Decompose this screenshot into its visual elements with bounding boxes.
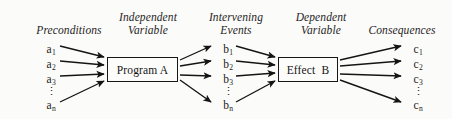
process-box-effect-b-label: Effect B: [287, 64, 330, 76]
arrow-program-to-b2: [180, 61, 211, 66]
intervening-sub-b2: 2: [229, 63, 233, 72]
arrow-an-to-program: [60, 81, 104, 102]
consequence-sub-cn: n: [419, 104, 423, 113]
arrow-group-intervening-to-effect: [236, 46, 275, 102]
intervening-item-b1: b1: [215, 44, 241, 56]
precondition-item-a2: a2: [38, 59, 64, 71]
intervening-sub-bn: n: [229, 104, 233, 113]
precondition-sub-a2: 2: [52, 63, 56, 72]
intervening-item-b3: b3: [215, 74, 241, 86]
precondition-sub-an: n: [52, 104, 56, 113]
arrow-effect-to-c3: [340, 74, 401, 76]
arrow-b3-to-effect: [236, 73, 275, 76]
precondition-item-a3: a3: [38, 74, 64, 86]
consequences-vertical-ellipsis: ⋮: [405, 87, 431, 96]
intervening-item-bn: bn: [215, 100, 241, 112]
column-header-consequences: Consequences: [352, 24, 452, 37]
consequence-sub-c2: 2: [419, 63, 423, 72]
consequence-item-cn: cn: [405, 100, 431, 112]
process-box-program-a[interactable]: Program A: [107, 57, 178, 82]
causal-model-diagram: Preconditions Independent Variable Inter…: [0, 0, 452, 119]
arrow-effect-to-cn: [340, 80, 401, 102]
arrow-effect-to-c1: [340, 46, 401, 60]
intervening-sub-b1: 1: [229, 48, 233, 57]
arrow-b2-to-effect: [236, 61, 275, 65]
arrow-bn-to-effect: [236, 81, 275, 102]
arrow-b1-to-effect: [236, 46, 275, 57]
process-box-program-a-label: Program A: [117, 64, 169, 76]
consequence-item-c2: c2: [405, 59, 431, 71]
arrow-effect-to-c2: [340, 61, 401, 66]
arrow-program-to-bn: [180, 80, 211, 102]
arrow-group-program-to-intervening: [180, 46, 211, 102]
precondition-item-a1: a1: [38, 44, 64, 56]
process-box-effect-b[interactable]: Effect B: [278, 57, 338, 82]
column-header-intervening-events: Intervening Events: [190, 11, 282, 36]
arrow-a3-to-program: [60, 74, 104, 76]
column-header-independent-variable: Independent Variable: [98, 11, 198, 36]
precondition-item-an: an: [38, 100, 64, 112]
arrow-program-to-b1: [180, 46, 211, 60]
arrow-program-to-b3: [180, 75, 211, 76]
consequence-sub-c1: 1: [419, 48, 423, 57]
precondition-base-a1: a: [47, 43, 52, 55]
arrow-group-preconditions-to-program: [60, 46, 104, 102]
intervening-item-b2: b2: [215, 59, 241, 71]
consequence-base-c1: c: [414, 43, 419, 55]
precondition-base-an: a: [47, 99, 52, 111]
arrow-group-effect-to-consequences: [340, 46, 401, 102]
preconditions-vertical-ellipsis: ⋮: [38, 87, 64, 96]
intervening-events-vertical-ellipsis: ⋮: [215, 87, 241, 96]
precondition-base-a2: a: [47, 58, 52, 70]
consequence-base-c2: c: [414, 58, 419, 70]
consequence-item-c3: c3: [405, 74, 431, 86]
precondition-base-a3: a: [47, 73, 52, 85]
consequence-base-c3: c: [414, 73, 419, 85]
arrow-a1-to-program: [60, 46, 104, 57]
consequence-item-c1: c1: [405, 44, 431, 56]
consequence-base-cn: c: [414, 99, 419, 111]
arrow-a2-to-program: [60, 61, 104, 65]
precondition-sub-a1: 1: [52, 48, 56, 57]
